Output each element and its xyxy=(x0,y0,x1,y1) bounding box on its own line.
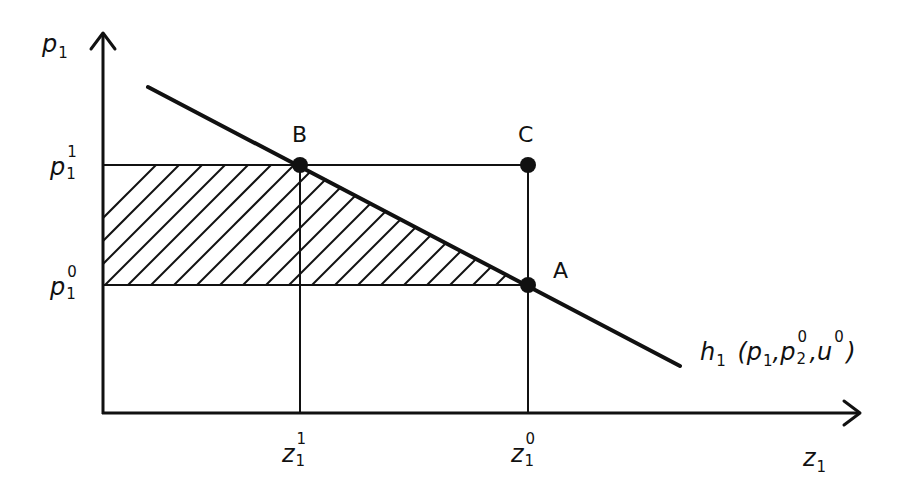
curve-label-close-paren: ) xyxy=(846,338,855,366)
curve-label-func-sub: 1 xyxy=(716,352,726,370)
x-tick-z1-1-sub: 1 xyxy=(296,454,306,469)
y-axis-label-base: p xyxy=(42,30,57,58)
y-tick-p1-0-sub: 1 xyxy=(66,287,76,302)
curve-label-open-paren: ( xyxy=(737,338,746,366)
point-c-label: C xyxy=(518,124,533,146)
curve-label-arg1-base: p xyxy=(747,338,762,366)
demand-curve-label: h1 (p1,p02,u0) xyxy=(700,340,856,369)
compensated-demand-curve-h1 xyxy=(148,87,680,366)
x-tick-z1-1-sup: 1 xyxy=(297,432,307,447)
point-c-marker xyxy=(520,157,536,173)
y-axis-label: p1 xyxy=(42,32,68,61)
point-b-label: B xyxy=(292,124,307,146)
point-b-marker xyxy=(292,157,308,173)
curve-label-sep2: , xyxy=(809,338,817,366)
curve-label-arg2-sup: 0 xyxy=(797,330,807,345)
y-tick-p1-1-base: p xyxy=(50,153,65,181)
y-tick-p1-1-sub: 1 xyxy=(66,167,76,182)
curve-label-func: h xyxy=(700,338,715,366)
x-tick-z1-0-base: z xyxy=(511,440,524,468)
y-axis-label-sub: 1 xyxy=(58,44,68,62)
x-tick-z1-1-base: z xyxy=(282,440,295,468)
y-tick-p1-0-sup: 0 xyxy=(67,265,77,280)
x-tick-label-z1-0: z01 xyxy=(511,442,538,466)
x-axis-label-sub: 1 xyxy=(817,458,827,476)
y-tick-p1-1-sup: 1 xyxy=(67,145,77,160)
curve-label-arg1-sub: 1 xyxy=(763,352,773,370)
point-a-marker xyxy=(520,277,536,293)
y-tick-label-p1-1: p11 xyxy=(50,155,79,179)
x-tick-label-z1-1: z11 xyxy=(282,442,309,466)
curve-label-arg2-base: p xyxy=(780,338,795,366)
x-tick-z1-0-sup: 0 xyxy=(526,432,536,447)
point-a-label: A xyxy=(553,260,568,282)
x-axis-label-base: z xyxy=(803,444,816,472)
y-tick-p1-0-base: p xyxy=(50,273,65,301)
x-axis-label: z1 xyxy=(803,446,826,475)
x-tick-z1-0-sub: 1 xyxy=(525,454,535,469)
curve-label-arg2-sub: 2 xyxy=(796,352,806,367)
curve-label-arg3-base: u xyxy=(817,338,832,366)
y-tick-label-p1-0: p01 xyxy=(50,275,79,299)
diagram-canvas xyxy=(0,0,900,498)
curve-label-arg3-sup: 0 xyxy=(834,330,844,345)
